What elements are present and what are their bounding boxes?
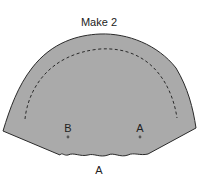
marker-label-b: B — [64, 122, 71, 134]
marker-dot-b — [67, 136, 70, 139]
pattern-piece — [3, 34, 196, 156]
marker-label-a: A — [136, 122, 144, 134]
edge-label-a: A — [95, 164, 103, 175]
instruction-label: Make 2 — [81, 16, 117, 28]
marker-dot-a — [139, 136, 142, 139]
pattern-diagram: Make 2 B A A — [0, 0, 198, 175]
